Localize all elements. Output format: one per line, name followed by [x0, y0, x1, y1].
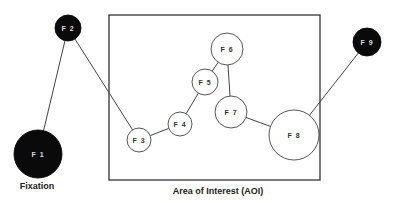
- fixation-f9: F 9: [353, 28, 381, 56]
- fixation-label: F 9: [360, 39, 373, 46]
- fixation-f2: F 2: [55, 15, 81, 41]
- fixation-circles: F 1F 2F 3F 4F 5F 6F 7F 8F 9: [14, 15, 381, 178]
- saccade-f4-f5: [186, 93, 198, 114]
- saccade-f8-f9: [309, 53, 358, 115]
- saccade-f2-f3: [75, 39, 133, 130]
- aoi-caption: Area of Interest (AOI): [173, 186, 264, 196]
- fixation-f7: F 7: [215, 96, 247, 128]
- fixation-f4: F 4: [168, 112, 192, 136]
- fixation-f3: F 3: [127, 128, 151, 152]
- saccade-f7-f8: [246, 117, 270, 126]
- fixation-caption: Fixation: [20, 181, 55, 191]
- fixation-label: F 2: [61, 25, 74, 32]
- fixation-label: F 5: [198, 79, 211, 86]
- saccade-f6-f7: [228, 65, 230, 96]
- fixation-f8: F 8: [269, 110, 319, 160]
- saccade-f1-f2: [44, 41, 65, 131]
- fixation-f5: F 5: [192, 69, 218, 95]
- fixation-label: F 4: [173, 121, 186, 128]
- fixation-f6: F 6: [211, 33, 243, 65]
- saccade-f5-f6: [212, 62, 218, 71]
- fixation-label: F 3: [132, 137, 145, 144]
- fixation-label: F 1: [31, 151, 44, 158]
- fixation-label: F 8: [287, 132, 300, 139]
- fixation-label: F 6: [220, 46, 233, 53]
- scanpath-diagram: F 1F 2F 3F 4F 5F 6F 7F 8F 9 Fixation Are…: [0, 0, 400, 203]
- saccade-f3-f4: [150, 128, 169, 135]
- fixation-f1: F 1: [14, 130, 62, 178]
- fixation-label: F 7: [224, 109, 237, 116]
